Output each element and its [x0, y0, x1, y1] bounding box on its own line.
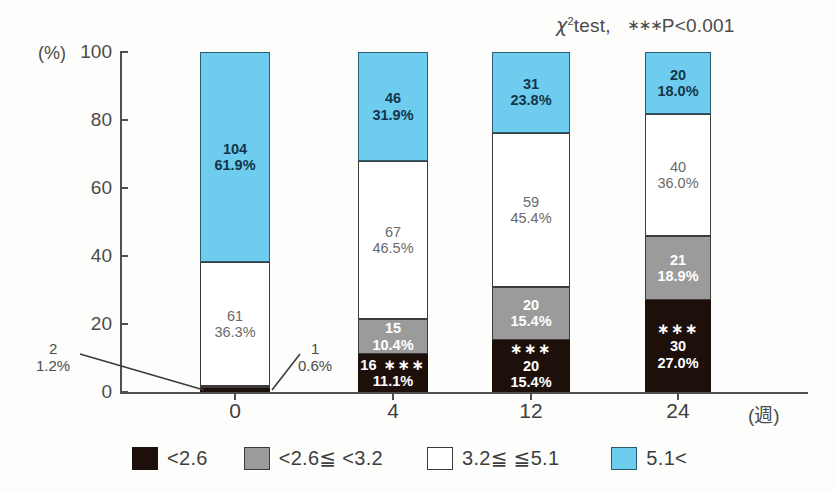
y-axis-label-20: 20: [68, 313, 112, 335]
bar-week-4-segment-blue[interactable]: 4631.9%: [358, 52, 428, 160]
bar-week-4-segment-black[interactable]: 16∗∗∗11.1%: [358, 354, 428, 392]
legend-label-black: <2.6: [167, 447, 208, 470]
week0-black-callout-percent: 1.2%: [36, 357, 70, 374]
y-axis-label-80: 80: [68, 109, 112, 131]
bar-week-4-segment-gray-percent: 10.4%: [372, 337, 413, 353]
bar-week-12-segment-white-percent: 45.4%: [510, 210, 551, 226]
bar-week-24-segment-blue-percent: 18.0%: [657, 83, 698, 99]
bar-week-12[interactable]: ∗∗∗2015.4%2015.4%5945.4%3123.8%: [492, 52, 570, 392]
x-axis-label-0: 0: [205, 399, 265, 423]
bar-week-0-segment-blue[interactable]: 10461.9%: [200, 52, 270, 262]
bar-week-24-segment-black[interactable]: ∗∗∗3027.0%: [645, 300, 711, 392]
y-axis-label-100: 100: [68, 41, 112, 63]
bar-week-24-segment-black-stars: ∗∗∗: [657, 321, 699, 338]
bar-week-24-segment-white-count: 40: [670, 159, 686, 175]
p-value-label: P<0.001: [662, 15, 735, 36]
y-tick-80: [120, 119, 128, 121]
legend-label-white: 3.2≦ ≦5.1: [462, 446, 559, 470]
bar-week-0-segment-white-count: 61: [227, 308, 243, 324]
week0-gray-callout: 1 0.6%: [298, 340, 332, 375]
legend-item-white[interactable]: 3.2≦ ≦5.1: [427, 446, 559, 470]
bar-week-12-segment-blue-percent: 23.8%: [510, 92, 551, 108]
week0-black-leader-line: [78, 352, 208, 394]
legend-item-gray[interactable]: <2.6≦ <3.2: [244, 446, 383, 470]
legend-swatch-white: [427, 447, 453, 470]
chart-root: χ2test, ∗∗∗P<0.001 (%) 100806040200 6136…: [0, 0, 835, 492]
bar-week-12-segment-blue[interactable]: 3123.8%: [492, 52, 570, 133]
bar-week-0-segment-gray[interactable]: [200, 386, 270, 388]
bar-week-12-segment-white-count: 59: [523, 194, 539, 210]
bar-week-4-segment-blue-count: 46: [385, 90, 401, 106]
week0-gray-leader-line: [270, 352, 302, 394]
bar-week-4-segment-black-row: 16∗∗∗: [360, 357, 425, 374]
y-axis-label-40: 40: [68, 245, 112, 267]
bar-week-4-segment-white[interactable]: 6746.5%: [358, 161, 428, 319]
bar-week-12-segment-gray-percent: 15.4%: [510, 313, 551, 329]
legend-label-blue: 5.1<: [646, 447, 687, 470]
significance-stars: ∗∗∗: [627, 16, 662, 33]
bar-week-0-segment-blue-percent: 61.9%: [214, 157, 255, 173]
bar-week-24-segment-gray-percent: 18.9%: [657, 268, 698, 284]
bar-week-0-segment-blue-count: 104: [223, 141, 247, 157]
bar-week-12-segment-blue-count: 31: [523, 76, 539, 92]
chi-symbol: χ: [556, 14, 567, 36]
legend-item-blue[interactable]: 5.1<: [611, 447, 687, 470]
legend-swatch-black: [132, 447, 158, 470]
x-axis-label-4: 4: [363, 399, 423, 423]
bar-week-12-segment-gray-count: 20: [523, 297, 539, 313]
bar-week-4-segment-white-percent: 46.5%: [372, 240, 413, 256]
bar-week-24-segment-black-percent: 27.0%: [657, 355, 698, 371]
bar-week-0[interactable]: 6136.3%10461.9%: [200, 52, 270, 392]
bar-week-24-segment-gray-count: 21: [670, 252, 686, 268]
bar-week-0-segment-white-percent: 36.3%: [214, 324, 255, 340]
legend-label-gray: <2.6≦ <3.2: [279, 446, 383, 470]
bar-week-12-segment-black[interactable]: ∗∗∗2015.4%: [492, 340, 570, 392]
bar-week-0-segment-white[interactable]: 6136.3%: [200, 262, 270, 385]
bar-week-24-segment-white-percent: 36.0%: [657, 175, 698, 191]
legend: <2.6<2.6≦ <3.23.2≦ ≦5.15.1<: [132, 446, 687, 470]
bar-week-4-segment-gray[interactable]: 1510.4%: [358, 319, 428, 354]
x-axis-label-12: 12: [501, 399, 561, 423]
x-axis-line: [120, 392, 808, 394]
bar-week-12-segment-black-stars: ∗∗∗: [510, 341, 552, 358]
bar-week-4-segment-black-percent: 11.1%: [373, 373, 413, 389]
y-axis-unit: (%): [38, 43, 66, 64]
week0-gray-callout-percent: 0.6%: [298, 357, 332, 374]
week0-gray-callout-count: 1: [298, 340, 332, 357]
week0-black-callout-count: 2: [36, 340, 70, 357]
bar-week-4-segment-white-count: 67: [385, 224, 401, 240]
x-axis-unit: (週): [748, 400, 780, 427]
legend-swatch-blue: [611, 447, 637, 470]
bar-week-24-segment-gray[interactable]: 2118.9%: [645, 236, 711, 300]
bar-week-24-segment-blue-count: 20: [670, 67, 686, 83]
y-tick-60: [120, 187, 128, 189]
bar-week-4-segment-blue-percent: 31.9%: [372, 107, 413, 123]
bar-week-4[interactable]: 16∗∗∗11.1%1510.4%6746.5%4631.9%: [358, 52, 428, 392]
bar-week-4-segment-black-stars: ∗∗∗: [383, 357, 425, 374]
y-tick-40: [120, 255, 128, 257]
bar-week-24-segment-blue[interactable]: 2018.0%: [645, 52, 711, 113]
bar-week-4-segment-black-count: 16: [360, 357, 376, 373]
bar-week-12-segment-black-percent: 15.4%: [510, 374, 551, 390]
bar-week-24[interactable]: ∗∗∗3027.0%2118.9%4036.0%2018.0%: [645, 52, 711, 392]
legend-swatch-gray: [244, 447, 270, 470]
bar-week-12-segment-gray[interactable]: 2015.4%: [492, 287, 570, 339]
y-tick-20: [120, 323, 128, 325]
bar-week-12-segment-white[interactable]: 5945.4%: [492, 133, 570, 287]
statistical-annotation: χ2test, ∗∗∗P<0.001: [556, 14, 735, 37]
test-label: test,: [574, 15, 611, 36]
x-axis-label-24: 24: [648, 399, 708, 423]
y-axis-line: [120, 52, 122, 393]
bar-week-24-segment-white[interactable]: 4036.0%: [645, 114, 711, 236]
bar-week-4-segment-gray-count: 15: [385, 320, 401, 336]
y-axis-label-60: 60: [68, 177, 112, 199]
bar-week-24-segment-black-count: 30: [670, 338, 686, 354]
legend-item-black[interactable]: <2.6: [132, 447, 208, 470]
y-tick-100: [120, 51, 128, 53]
week0-black-callout: 2 1.2%: [36, 340, 70, 375]
bar-week-12-segment-black-count: 20: [523, 358, 539, 374]
